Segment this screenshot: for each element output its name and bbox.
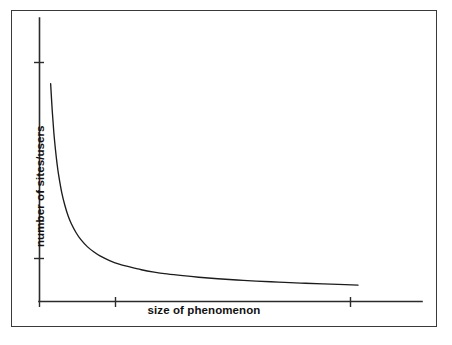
- x-axis-label: size of phenomenon: [39, 304, 369, 316]
- y-axis-label: number of sites/users: [34, 47, 46, 247]
- chart-figure: number of sites/users size of phenomenon: [0, 0, 452, 345]
- plot-area: [0, 0, 452, 345]
- power-law-curve: [51, 84, 358, 285]
